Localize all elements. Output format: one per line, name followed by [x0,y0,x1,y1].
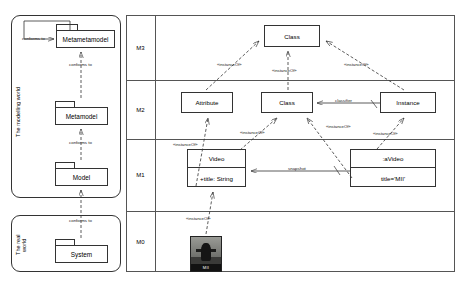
diagram-canvas: The modelling world The realworld Metame… [0,0,463,284]
edges-m2-to-m3 [206,41,404,90]
edge-snapshot [251,166,350,175]
connector-layer [0,0,463,284]
edge-classifier [317,100,380,108]
edge-m0-to-m1 [206,192,213,234]
edges-m1-to-m2 [196,118,404,186]
edge-self-conforms-to [24,21,70,39]
